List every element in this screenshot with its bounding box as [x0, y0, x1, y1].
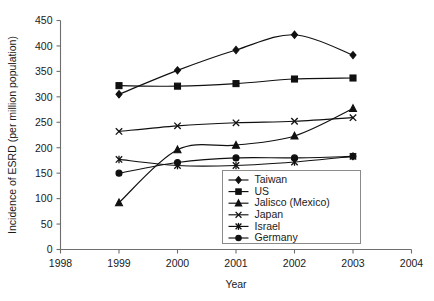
y-tick-label: 200 [35, 142, 53, 154]
x-tick-label: 2001 [224, 257, 248, 269]
chart-container: Incidence of ESRD (per million populatio… [0, 0, 434, 301]
y-tick-label: 300 [35, 91, 53, 103]
marker-diamond [292, 31, 298, 38]
legend-item-label: Israel [255, 220, 281, 232]
series-us [116, 75, 356, 89]
y-tick-label: 50 [41, 218, 53, 230]
marker-triangle [174, 146, 181, 153]
x-tick-label: 1999 [107, 257, 131, 269]
marker-circle [350, 153, 356, 159]
marker-square [116, 83, 122, 89]
y-tick-label: 250 [35, 116, 53, 128]
x-axis: 1998199920002001200220032004 Year [49, 250, 424, 291]
marker-circle [116, 170, 122, 176]
y-tick-label: 0 [47, 243, 53, 255]
marker-circle [292, 155, 298, 161]
legend-item-label: Germany [255, 231, 299, 243]
marker-diamond [175, 67, 181, 74]
marker-circle [175, 159, 181, 165]
x-tick-label: 2004 [400, 257, 424, 269]
chart-legend: TaiwanUSJalisco (Mexico)JapanIsraelGerma… [223, 171, 361, 244]
x-tick-label: 2003 [341, 257, 365, 269]
legend-item-label: Japan [255, 208, 284, 220]
y-tick-label: 350 [35, 65, 53, 77]
y-axis-title: Incidence of ESRD (per million populatio… [6, 36, 18, 234]
series-taiwan [116, 31, 356, 98]
y-tick-label: 150 [35, 167, 53, 179]
y-tick-label: 450 [35, 14, 53, 26]
x-tick-label: 1998 [49, 257, 73, 269]
marker-triangle [350, 105, 357, 112]
marker-diamond [116, 91, 122, 98]
marker-square [236, 189, 241, 194]
y-axis: 050100150200250300350400450 [35, 14, 61, 255]
legend-item-label: Taiwan [255, 173, 288, 185]
y-tick-label: 400 [35, 40, 53, 52]
marker-square [292, 76, 298, 82]
series-line-path [119, 118, 353, 132]
marker-square [350, 75, 356, 81]
marker-circle [233, 155, 239, 161]
legend-item-label: US [255, 185, 270, 197]
x-axis-title: Year [225, 278, 247, 290]
marker-square [233, 81, 239, 87]
line-chart-svg: Incidence of ESRD (per million populatio… [0, 0, 434, 301]
y-axis-ticks: 050100150200250300350400450 [35, 14, 61, 255]
marker-square [175, 83, 181, 89]
x-axis-ticks: 1998199920002001200220032004 [49, 250, 424, 269]
marker-diamond [350, 52, 356, 59]
x-tick-label: 2000 [166, 257, 190, 269]
legend-item-label: Jalisco (Mexico) [255, 196, 330, 208]
marker-diamond [233, 46, 239, 53]
x-tick-label: 2002 [283, 257, 307, 269]
marker-circle [236, 235, 241, 240]
y-tick-label: 100 [35, 192, 53, 204]
y-axis-title-group: Incidence of ESRD (per million populatio… [6, 36, 18, 234]
